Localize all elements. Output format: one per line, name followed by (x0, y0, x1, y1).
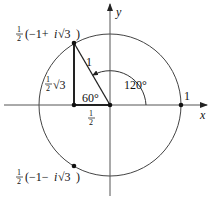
svg-text:i: i (54, 27, 57, 41)
radius-label: 1 (86, 55, 92, 69)
svg-text:): ) (76, 170, 80, 184)
svg-text:1: 1 (17, 25, 21, 34)
svg-text:√3: √3 (58, 27, 71, 41)
svg-text:2: 2 (17, 177, 21, 186)
svg-text:1: 1 (17, 168, 21, 177)
svg-text:2: 2 (46, 84, 50, 93)
svg-text:i: i (54, 170, 57, 184)
point-origin (108, 103, 113, 108)
svg-text:(−1+: (−1+ (25, 27, 49, 41)
point-lower (72, 164, 77, 169)
vertical-leg-label: 1 2 √3 (45, 75, 66, 93)
lower-point-label: 1 2 (−1− i √3 ) (16, 168, 80, 186)
unit-circle-diagram: y x 1 1 60° 120° 1 2 1 2 √3 1 2 (−1+ i (0, 0, 216, 209)
svg-text:2: 2 (89, 118, 93, 127)
svg-text:√3: √3 (53, 78, 66, 92)
svg-text:2: 2 (17, 34, 21, 43)
svg-text:1: 1 (89, 109, 93, 118)
horizontal-leg-label: 1 2 (88, 109, 95, 127)
svg-text:√3: √3 (58, 170, 71, 184)
svg-text:1: 1 (46, 75, 50, 84)
point-upper (72, 41, 77, 46)
y-axis-label: y (115, 5, 122, 19)
svg-text:): ) (76, 27, 80, 41)
point-one (179, 103, 184, 108)
angle-60-label: 60° (82, 91, 99, 105)
x-axis-label: x (199, 108, 206, 122)
point-foot (72, 103, 77, 108)
svg-text:(−1−: (−1− (25, 170, 49, 184)
upper-point-label: 1 2 (−1+ i √3 ) (16, 25, 80, 43)
unit-point-label: 1 (184, 89, 190, 103)
angle-120-label: 120° (124, 78, 147, 92)
